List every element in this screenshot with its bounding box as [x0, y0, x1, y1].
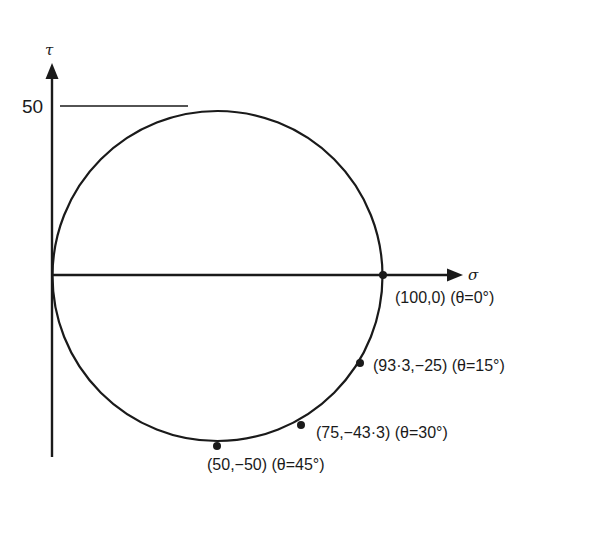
tau-axis-arrow-icon: [46, 63, 59, 79]
point-theta-15: [356, 359, 364, 367]
point-theta-45: [213, 442, 221, 450]
tau-axis-label: τ: [45, 41, 54, 59]
point-label-theta-30: (75,−43·3) (θ=30°): [316, 424, 448, 441]
point-theta-30: [297, 421, 305, 429]
point-label-theta-45: (50,−50) (θ=45°): [207, 456, 325, 473]
point-label-theta-0: (100,0) (θ=0°): [395, 289, 494, 306]
point-theta-0: [379, 271, 387, 279]
point-label-theta-15: (93·3,−25) (θ=15°): [373, 357, 505, 374]
tick-label-50: 50: [22, 96, 43, 117]
sigma-axis-arrow-icon: [447, 269, 463, 282]
mohr-circle-diagram: τ σ 50 (100,0) (θ=0°) (93·3,−25) (θ=15°)…: [0, 0, 590, 535]
sigma-axis-label: σ: [468, 266, 479, 284]
